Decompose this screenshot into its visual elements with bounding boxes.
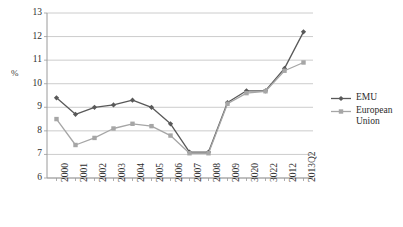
x-axis-tick-2002: 2002 [99,163,109,182]
legend-label: European Union [356,105,403,126]
y-axis-tick-6: 6 [26,173,42,183]
x-axis-tick-2013Q2: 2013Q2 [308,151,318,182]
y-axis-tick-12: 12 [26,32,42,42]
x-axis-tick-2003: 2003 [118,163,128,182]
y-axis-tick-7: 7 [26,149,42,159]
series-emu [54,29,306,154]
x-axis-tick-3020: 3020 [251,163,261,182]
x-axis-tick-2006: 2006 [175,163,185,182]
x-axis-tick-2001: 2001 [80,163,90,182]
x-axis-tick-2005: 2005 [156,163,166,182]
datapoint-european-union-2007 [187,151,191,155]
datapoint-european-union-3022 [263,89,267,93]
y-axis-tick-10: 10 [26,79,42,89]
datapoint-emu-2003 [111,102,116,107]
datapoint-european-union-2000 [54,117,58,121]
x-axis-tick-2004: 2004 [137,163,147,182]
legend-marker-diamond-icon [330,93,352,104]
legend-point [339,109,343,113]
legend-label: EMU [356,92,377,103]
x-axis-tick-2008: 2008 [213,163,223,182]
datapoint-european-union-2001 [73,143,77,147]
datapoint-emu-2002 [92,105,97,110]
x-axis-tick-2007: 2007 [194,163,204,182]
x-axis-tick-3022: 3022 [270,163,280,182]
datapoint-european-union-2002 [92,136,96,140]
legend-marker-square-icon [330,106,352,117]
legend-point [338,96,343,101]
datapoint-european-union-2004 [130,122,134,126]
x-axis-tick-2009: 2009 [232,163,242,182]
legend-item-european-union[interactable]: European Union [330,105,403,126]
datapoint-european-union-2009 [225,102,229,106]
datapoint-european-union-2012 [282,69,286,73]
datapoint-european-union-2005 [149,124,153,128]
y-axis-tick-9: 9 [26,102,42,112]
datapoint-emu-2004 [130,98,135,103]
chart-legend: EMUEuropean Union [330,92,403,127]
datapoint-european-union-2008 [206,151,210,155]
datapoint-european-union-2003 [111,126,115,130]
legend-item-emu[interactable]: EMU [330,92,403,104]
y-axis-unit-label: % [11,68,19,78]
datapoint-european-union-2013Q2 [301,60,305,64]
datapoint-european-union-3020 [244,91,248,95]
datapoint-emu-2013Q2 [301,29,306,34]
y-axis-tick-11: 11 [26,55,42,65]
y-axis-tick-13: 13 [26,8,42,18]
x-axis-tick-2012: 2012 [289,163,299,182]
y-axis-tick-8: 8 [26,126,42,136]
x-axis-tick-2000: 2000 [61,163,71,182]
unemployment-rate-line-chart: % 678910111213 2000200120022003200420052… [0,0,403,227]
datapoint-european-union-2006 [168,133,172,137]
